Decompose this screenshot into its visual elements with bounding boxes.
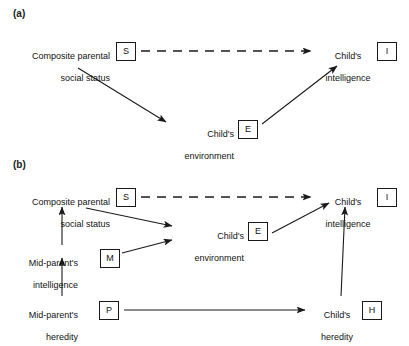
var-box-S-b[interactable]: S: [116, 188, 136, 207]
var-box-S-a[interactable]: S: [116, 42, 136, 61]
panel-b-label: (b): [13, 159, 26, 170]
label-line-2: social status: [60, 219, 110, 229]
var-box-M-b[interactable]: M: [100, 249, 120, 268]
label-line-1: Child's: [335, 51, 362, 61]
label-childs-intelligence-a: Child's intelligence: [312, 40, 374, 95]
label-childs-environment-b: Child's environment: [178, 220, 244, 275]
label-line-2: intelligence: [33, 280, 78, 290]
label-line-1: Child's: [217, 231, 244, 241]
label-line-1: Child's: [324, 310, 351, 320]
label-childs-environment-a: Child's environment: [168, 118, 234, 173]
panel-a-edges: [78, 51, 337, 124]
edge-b-M-to-E: [122, 240, 172, 253]
label-mid-parents-intelligence-b: Mid-parent's intelligence: [6, 247, 78, 302]
label-line-2: environment: [184, 151, 234, 161]
var-box-P-b[interactable]: P: [99, 301, 119, 320]
label-line-1: Child's: [207, 129, 234, 139]
label-line-2: heredity: [321, 332, 353, 342]
label-line-2: intelligence: [325, 219, 370, 229]
var-box-E-a[interactable]: E: [238, 120, 258, 139]
label-line-2: heredity: [46, 332, 78, 342]
label-composite-parental-social-status-a: Composite parental social status: [6, 40, 110, 95]
panel-a-label: (a): [13, 8, 25, 19]
label-childs-intelligence-b: Child's intelligence: [312, 186, 374, 241]
label-childs-heredity-b: Child's heredity: [306, 299, 358, 346]
label-line-1: Child's: [335, 197, 362, 207]
var-box-I-a[interactable]: I: [377, 42, 397, 61]
var-box-E-b[interactable]: E: [248, 222, 268, 241]
label-line-1: Composite parental: [32, 197, 110, 207]
label-mid-parents-heredity-b: Mid-parent's heredity: [6, 299, 78, 346]
label-line-1: Mid-parent's: [29, 258, 78, 268]
label-line-1: Mid-parent's: [29, 310, 78, 320]
var-box-I-b[interactable]: I: [377, 188, 397, 207]
label-composite-parental-social-status-b: Composite parental social status: [6, 186, 110, 241]
label-line-2: intelligence: [325, 73, 370, 83]
label-line-2: social status: [60, 73, 110, 83]
label-line-2: environment: [194, 253, 244, 263]
var-box-H-b[interactable]: H: [362, 301, 382, 320]
label-line-1: Composite parental: [32, 51, 110, 61]
